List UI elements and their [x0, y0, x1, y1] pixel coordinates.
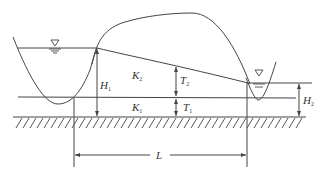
label-h1: H1 — [99, 79, 111, 92]
diagram-svg: K2 K1 H1 T2 T1 H2 L — [0, 0, 323, 178]
seepage-diagram: K2 K1 H1 T2 T1 H2 L — [0, 0, 323, 178]
seepage-line — [97, 48, 248, 83]
label-t2: T2 — [180, 74, 189, 87]
ground-surface — [13, 117, 306, 128]
left-water-level-icon — [49, 40, 61, 53]
label-t1: T1 — [183, 101, 192, 114]
ground-hatching — [16, 118, 302, 128]
left-channel — [13, 37, 97, 104]
label-k2: K2 — [131, 69, 142, 82]
right-water-level-icon — [253, 70, 265, 87]
label-k1: K1 — [131, 101, 142, 114]
right-channel — [246, 62, 276, 100]
label-l: L — [155, 149, 162, 161]
layer-boundary — [18, 97, 296, 98]
label-h2: H2 — [302, 94, 314, 107]
embankment-surface — [92, 13, 250, 84]
